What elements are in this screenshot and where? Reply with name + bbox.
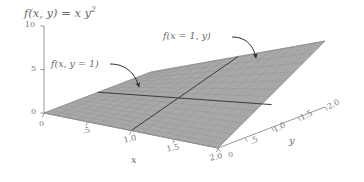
z-tick-10: 10 [25,21,35,29]
z-tick-5: 5 [31,65,36,73]
annotation-slice-x-equals-1: f(x = 1, y) [163,31,211,41]
annotation-slice-y-equals-1: f(x, y = 1) [51,59,99,69]
x-tick-0: 0 [39,120,44,128]
y-tick-0: 0 [228,151,233,159]
z-tick-0: 0 [31,108,36,116]
figure-title: f(x, y) = x y2 [24,6,96,19]
x-tick-0point5: .5 [82,126,91,136]
z-axis-ticks [41,26,45,113]
surface-plot-figure: f(x, y) = x y2 10 5 0 0 .5 1.0 1.5 2.0 x… [0,0,364,182]
x-axis-label: x [131,155,137,165]
plot-canvas [0,0,364,182]
title-exponent: 2 [91,5,96,14]
y-axis-label: y [289,136,295,146]
